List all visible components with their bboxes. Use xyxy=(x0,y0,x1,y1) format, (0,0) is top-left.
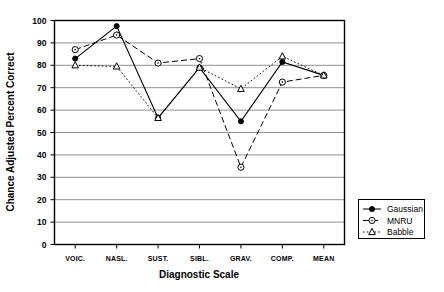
legend-label-mnru: MNRU xyxy=(387,216,413,226)
datapoint-mnru-VOIC-center xyxy=(74,49,76,51)
y-tick-label-90: 90 xyxy=(37,38,47,48)
x-tick-label-VOIC: VOIC. xyxy=(65,255,85,262)
y-tick-label-60: 60 xyxy=(37,105,47,115)
datapoint-mnru-COMP-center xyxy=(282,81,284,83)
datapoint-mnru-GRAV-center xyxy=(240,166,242,168)
x-tick-label-SIBL: SIBL. xyxy=(190,255,209,262)
y-axis-title: Chance Adjusted Percent Correct xyxy=(5,52,16,212)
datapoint-gaussian-GRAV xyxy=(238,119,243,124)
y-tick-label-50: 50 xyxy=(37,128,47,138)
y-tick-label-100: 100 xyxy=(32,16,46,26)
chart-figure: 0102030405060708090100 VOIC.NASL.SUST.SI… xyxy=(0,0,444,292)
x-axis-title: Diagnostic Scale xyxy=(159,269,239,280)
legend-marker-gaussian xyxy=(369,206,374,211)
y-tick-label-30: 30 xyxy=(37,172,47,182)
datapoint-gaussian-COMP xyxy=(280,59,285,64)
x-tick-label-GRAV: GRAV. xyxy=(230,255,252,262)
datapoint-mnru-SUST-center xyxy=(157,62,159,64)
y-tick-label-70: 70 xyxy=(37,83,47,93)
x-tick-label-COMP: COMP. xyxy=(271,255,294,262)
y-tick-label-10: 10 xyxy=(37,217,47,227)
x-tick-label-MEAN: MEAN xyxy=(313,255,334,262)
legend-label-gaussian: Gaussian xyxy=(387,204,423,214)
chart-svg: 0102030405060708090100 VOIC.NASL.SUST.SI… xyxy=(0,0,444,292)
x-tick-label-NASL: NASL. xyxy=(106,255,128,262)
y-tick-label-40: 40 xyxy=(37,150,47,160)
chart-background xyxy=(0,0,444,292)
y-tick-label-0: 0 xyxy=(42,240,47,250)
legend-label-babble: Babble xyxy=(387,227,414,237)
x-tick-label-SUST: SUST. xyxy=(148,255,169,262)
datapoint-mnru-SIBL-center xyxy=(199,58,201,60)
datapoint-gaussian-VOIC xyxy=(73,56,78,61)
datapoint-mnru-NASL-center xyxy=(116,34,118,36)
chart-legend: GaussianMNRUBabble xyxy=(359,200,425,239)
legend-marker-mnru-center xyxy=(371,220,373,222)
y-tick-label-20: 20 xyxy=(37,195,47,205)
y-tick-label-80: 80 xyxy=(37,60,47,70)
datapoint-gaussian-NASL xyxy=(114,24,119,29)
